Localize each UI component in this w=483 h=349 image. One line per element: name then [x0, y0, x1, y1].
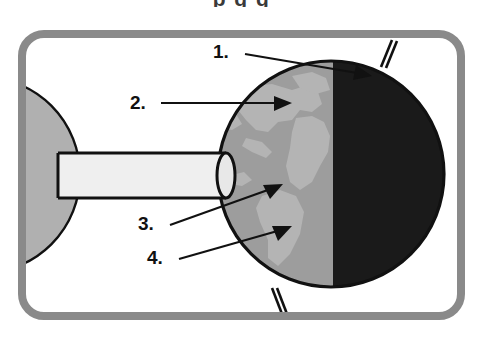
beam-end-cap-ellipse	[217, 153, 235, 198]
callout-4-label: 4.	[147, 247, 163, 268]
callout-2-label: 2.	[130, 92, 146, 113]
beam-body	[58, 153, 226, 198]
callout-3-label: 3.	[138, 213, 154, 234]
earth-sun-daylight-diagram: 1. 2. 3. 4.	[0, 0, 483, 349]
diagram-canvas: p g g	[0, 0, 483, 349]
light-beam-cylinder	[58, 153, 235, 198]
callout-1-label: 1.	[213, 41, 229, 62]
